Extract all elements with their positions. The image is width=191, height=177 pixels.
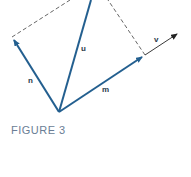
label-m: m [102, 85, 109, 94]
vector-u [59, 0, 91, 112]
figure-caption: FIGURE 3 [11, 124, 66, 136]
vector-n [14, 40, 59, 112]
dashed-line-m [108, 0, 145, 55]
dashed-line-n [12, 0, 70, 37]
vector-diagram: u n m v [0, 0, 191, 177]
label-v: v [154, 35, 159, 44]
label-u: u [81, 44, 86, 53]
vector-v [145, 34, 177, 55]
label-n: n [28, 76, 33, 85]
